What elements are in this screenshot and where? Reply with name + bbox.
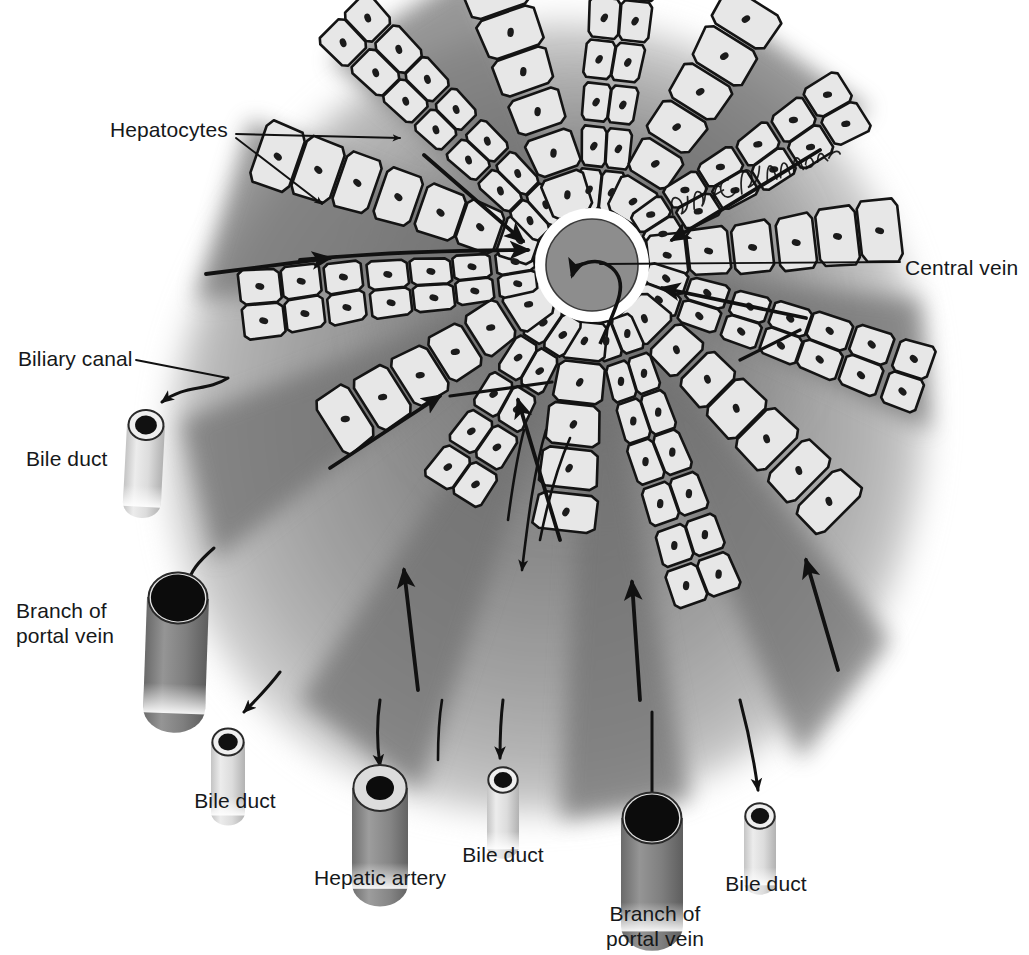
label-bile-duct-mid: Bile duct xyxy=(0,843,1006,868)
vessel-lumen xyxy=(751,808,769,824)
label-bile-duct-lower: Bile duct xyxy=(0,789,470,814)
vessel-lumen xyxy=(494,772,512,788)
figure-canvas: Hepatocytes Central vein Biliary canal B… xyxy=(0,0,1029,955)
label-central-vein: Central vein xyxy=(905,256,1018,281)
vessel-lumen xyxy=(218,734,238,751)
label-bile-duct-left: Bile duct xyxy=(26,447,107,472)
label-branch-portal-vein-bottom: Branch of portal vein xyxy=(0,902,1029,952)
vessel-branch-portal-left xyxy=(142,571,210,733)
label-biliary-canal: Biliary canal xyxy=(18,347,133,372)
label-branch-portal-vein-left: Branch of portal vein xyxy=(16,599,114,649)
vessel-fade xyxy=(123,459,163,508)
vessel-lumen xyxy=(625,795,679,842)
vessel-fade xyxy=(143,646,207,714)
label-bile-duct-right: Bile duct xyxy=(0,872,1029,897)
label-hepatocytes: Hepatocytes xyxy=(110,118,228,143)
vessel-bile-duct-left xyxy=(122,409,166,519)
